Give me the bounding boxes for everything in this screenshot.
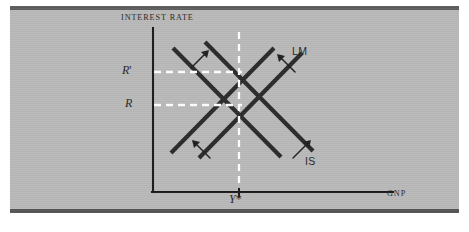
figure-root: INTEREST RATE GNP LM IS R' R Y* <box>0 0 469 232</box>
guide-lines-group <box>154 32 242 191</box>
y-axis-title: INTEREST RATE <box>121 14 194 22</box>
r-prime-mark: ' <box>129 63 131 77</box>
lm-curve-label: LM <box>292 46 307 57</box>
scanned-figure-plate <box>10 6 459 213</box>
is-curves-group <box>173 42 313 157</box>
y-star-mark: * <box>236 192 242 206</box>
y-axis-tick-label-r: R <box>125 97 132 109</box>
y-axis-tick-label-r-prime: R' <box>122 64 132 76</box>
is-shift-arrow-upper-left <box>191 50 209 68</box>
is-curve-label: IS <box>305 156 316 167</box>
is-lm-plot <box>10 6 459 213</box>
x-axis-tick-label-y-star: Y* <box>229 193 242 205</box>
x-axis-title: GNP <box>387 190 406 198</box>
y-star-base: Y <box>229 192 236 206</box>
